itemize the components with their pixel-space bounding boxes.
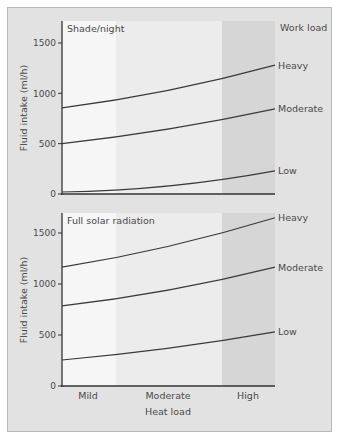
y-tick-label-0: 0: [50, 189, 56, 199]
y-tick-label-1000: 1000: [33, 279, 56, 289]
series-label-low: Low: [278, 326, 297, 337]
y-tick-label-1500: 1500: [33, 38, 56, 48]
y-tick-label-500: 500: [39, 139, 56, 149]
panel-title: Shade/night: [67, 23, 125, 34]
y-tick-label-1000: 1000: [33, 89, 56, 99]
y-tick-label-1500: 1500: [33, 228, 56, 238]
band-moderate: [116, 213, 222, 386]
panel-title: Full solar radiation: [67, 215, 155, 226]
chart-figure: 050010001500Shade/nightHeavyModerateLow …: [0, 0, 337, 439]
series-label-low: Low: [278, 165, 297, 176]
y-tick-label-500: 500: [39, 330, 56, 340]
series-label-heavy: Heavy: [278, 60, 308, 71]
band-moderate: [116, 21, 222, 194]
x-tick-label-high: High: [237, 390, 259, 401]
y-axis-label-top: Fluid intake (ml/h): [18, 65, 29, 152]
y-tick-label-0: 0: [50, 381, 56, 391]
panel-shade-night: 050010001500Shade/nightHeavyModerateLow: [33, 21, 323, 199]
series-label-moderate: Moderate: [278, 262, 323, 273]
series-label-moderate: Moderate: [278, 103, 323, 114]
legend-title-work-load: Work load: [280, 22, 327, 33]
band-mild: [62, 21, 116, 194]
x-tick-label-mild: Mild: [78, 390, 98, 401]
x-axis-label: Heat load: [145, 406, 191, 417]
band-high: [222, 21, 275, 194]
y-axis-label-bottom: Fluid intake (ml/h): [18, 257, 29, 344]
x-tick-label-moderate: Moderate: [145, 390, 190, 401]
panel-full-solar-radiation: 050010001500Full solar radiationHeavyMod…: [33, 212, 323, 391]
band-high: [222, 213, 275, 386]
series-label-heavy: Heavy: [278, 212, 308, 223]
